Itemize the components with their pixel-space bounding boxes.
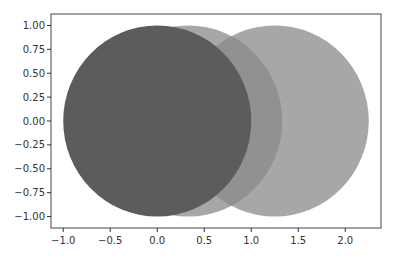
x-tick-label: −1.0 xyxy=(51,235,75,246)
x-tick-label: 1.0 xyxy=(243,235,259,246)
chart: −1.0−0.50.00.51.01.52.0 1.000.750.500.25… xyxy=(0,0,395,259)
y-tick-label: 0.25 xyxy=(23,92,45,103)
x-tick-label: −0.5 xyxy=(98,235,122,246)
y-tick-label: −0.25 xyxy=(14,139,45,150)
y-axis: 1.000.750.500.250.00−0.25−0.50−0.75−1.00 xyxy=(14,20,51,222)
y-tick-label: −0.75 xyxy=(14,187,45,198)
x-tick-label: 0.0 xyxy=(149,235,165,246)
y-tick-label: 0.00 xyxy=(23,116,45,127)
circle-left xyxy=(63,25,251,216)
y-tick-label: −0.50 xyxy=(14,163,45,174)
y-tick-label: 0.50 xyxy=(23,68,45,79)
x-axis: −1.0−0.50.00.51.01.52.0 xyxy=(51,228,353,246)
plot-area xyxy=(63,25,369,216)
y-tick-label: 0.75 xyxy=(23,44,45,55)
x-tick-label: 1.5 xyxy=(290,235,306,246)
y-tick-label: 1.00 xyxy=(23,20,45,31)
x-tick-label: 0.5 xyxy=(196,235,212,246)
y-tick-label: −1.00 xyxy=(14,211,45,222)
x-tick-label: 2.0 xyxy=(337,235,353,246)
